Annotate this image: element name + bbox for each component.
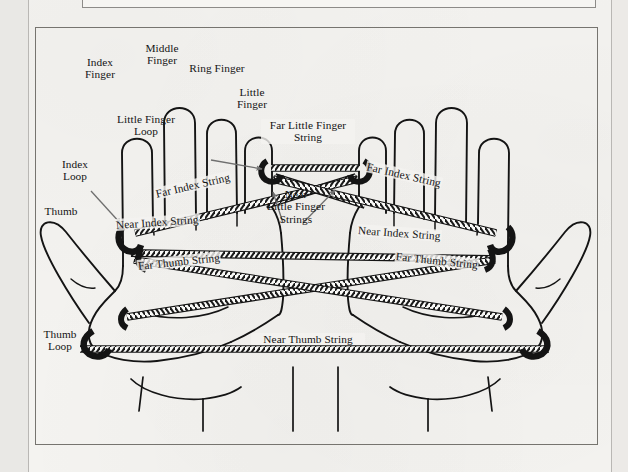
label-index-finger: Index Finger xyxy=(72,56,128,81)
figure-artwork xyxy=(35,27,596,443)
label-thumb-loop: Thumb Loop xyxy=(36,328,84,353)
label-near-thumb-string: Near Thumb String xyxy=(251,333,365,345)
label-line: String xyxy=(262,131,354,143)
label-line: Index xyxy=(72,56,128,68)
label-line: Far Little Finger xyxy=(262,119,354,131)
label-line: Near Thumb String xyxy=(252,333,364,345)
label-line: Near xyxy=(258,188,334,200)
label-line: Finger xyxy=(72,68,128,80)
label-line: Loop xyxy=(52,170,98,182)
label-line: Finger xyxy=(228,98,276,110)
label-line: Little Finger xyxy=(107,113,185,125)
page-gutter-left xyxy=(0,0,28,472)
label-index-loop: Index Loop xyxy=(52,158,98,183)
label-little-finger-loop: Little Finger Loop xyxy=(107,113,185,138)
label-far-little-finger-string: Far Little Finger String xyxy=(261,119,355,144)
label-near-little-finger-strings: Near Little Finger Strings xyxy=(258,188,334,225)
label-line: Thumb xyxy=(36,328,84,340)
page-sheet: Index Finger Middle Finger Ring Finger L… xyxy=(0,0,628,472)
previous-figure-box xyxy=(82,0,596,8)
label-ring-finger: Ring Finger xyxy=(182,62,252,74)
label-line: Thumb xyxy=(36,205,86,217)
label-line: Loop xyxy=(107,125,185,137)
label-line: Middle xyxy=(132,42,192,54)
label-little-finger: Little Finger xyxy=(228,86,276,111)
label-line: Strings xyxy=(258,213,334,225)
label-line: Little Finger xyxy=(258,200,334,212)
label-line: Little xyxy=(228,86,276,98)
page-trim-left xyxy=(28,0,29,472)
label-line: Index xyxy=(52,158,98,170)
label-line: Ring Finger xyxy=(182,62,252,74)
label-thumb-left: Thumb xyxy=(36,205,86,217)
page-trim-right xyxy=(611,0,612,472)
page-gutter-right xyxy=(612,0,628,472)
label-line: Loop xyxy=(36,340,84,352)
